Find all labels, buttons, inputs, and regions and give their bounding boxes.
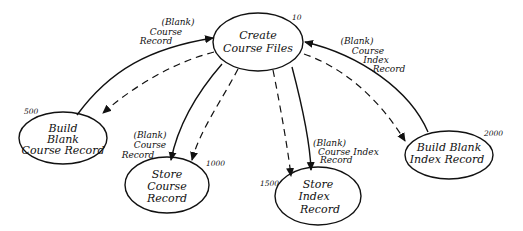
flow-label-line-3: Record (319, 155, 353, 165)
flow-label-line-4: Record (372, 64, 406, 74)
edge-create-to-store-index (292, 67, 311, 170)
flow-label-line-1: (Blank) (161, 17, 195, 27)
node-store-index-line-2: Index (297, 190, 330, 203)
node-store-index-line-3: Record (299, 203, 340, 216)
flow-label-line-2: Course (134, 140, 166, 150)
node-store-course-line-3: Record (146, 192, 187, 205)
edge-create-to-store-index-dashed (273, 70, 291, 176)
node-build-course-line-3: Course Record (22, 144, 105, 157)
node-create-line-2: Course Files (223, 42, 293, 55)
flow-label-line-1: (Blank) (133, 130, 167, 140)
node-build-blank-course-record: Build Blank Course Record 500 (19, 107, 107, 164)
node-build-blank-index-record: Build Blank Index Record 2000 (405, 129, 503, 179)
edge-create-to-store-course-dashed (192, 69, 238, 160)
flow-label-blank-course-index-record-up: (Blank) Course Index Record (340, 36, 405, 74)
node-create-course-files: Create Course Files 10 (213, 13, 303, 71)
node-build-index-number: 2000 (483, 129, 503, 138)
node-build-index-line-2: Index Record (409, 153, 485, 166)
node-store-course-number: 1000 (206, 159, 225, 168)
node-build-course-number: 500 (24, 107, 39, 116)
flow-label-line-3: Record (121, 150, 155, 160)
node-store-index-record: Store Index Record 1500 (260, 167, 361, 225)
flow-label-blank-course-record-up: (Blank) Course Record (139, 17, 195, 46)
flow-label-line-1: (Blank) (340, 36, 374, 46)
node-store-index-number: 1500 (260, 179, 279, 188)
diagram-canvas: Create Course Files 10 Build Blank Cours… (0, 0, 523, 231)
node-store-course-record: Store Course Record 1000 (125, 157, 225, 213)
flow-label-blank-course-record-down: (Blank) Course Record (121, 130, 167, 160)
flow-label-line-3: Record (139, 36, 173, 46)
edge-create-to-build-course (103, 52, 214, 113)
flow-label-blank-course-index-record-down: (Blank) Course Index Record (313, 138, 379, 165)
node-create-number: 10 (292, 13, 302, 22)
node-create-line-1: Create (239, 29, 277, 42)
